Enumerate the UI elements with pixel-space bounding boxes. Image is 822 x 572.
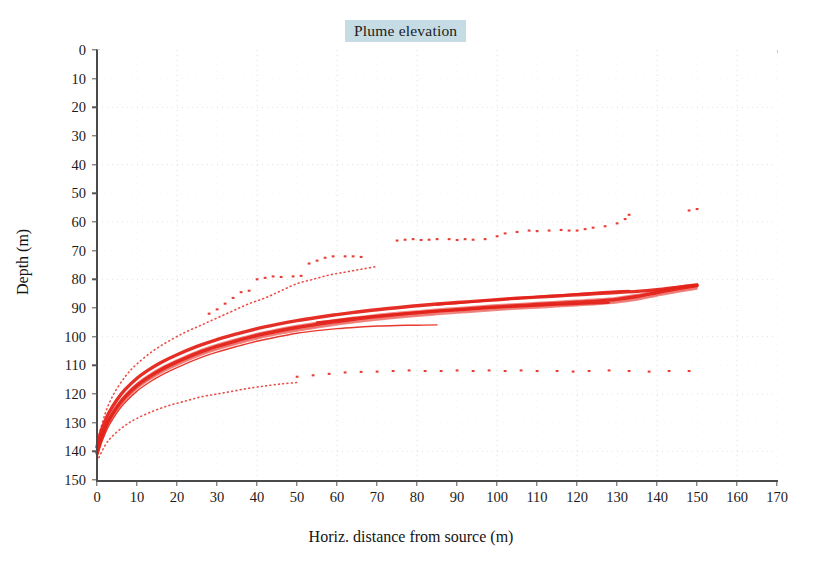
series-plume-centreline-band-lower <box>97 325 437 457</box>
x-tick-mark-160 <box>736 481 737 486</box>
y-tick-mark-30 <box>92 135 97 136</box>
x-tick-30: 30 <box>210 490 225 505</box>
x-tick-110: 110 <box>526 490 547 505</box>
data-layer <box>97 50 777 480</box>
y-tick-10: 10 <box>40 71 86 86</box>
y-tick-mark-100 <box>92 336 97 337</box>
plot-frame-right <box>777 50 778 481</box>
x-tick-mark-110 <box>536 481 537 486</box>
x-tick-mark-60 <box>336 481 337 486</box>
scatter-mid-scatter-band <box>396 208 699 242</box>
x-tick-0: 0 <box>93 490 100 505</box>
plot-frame-top <box>97 49 778 50</box>
x-tick-mark-40 <box>256 481 257 486</box>
y-tick-40: 40 <box>40 157 86 172</box>
x-tick-mark-120 <box>576 481 577 486</box>
chart-title: Plume elevation <box>345 20 466 42</box>
x-axis-line <box>96 480 778 482</box>
x-tick-20: 20 <box>170 490 185 505</box>
y-tick-130: 130 <box>40 415 86 430</box>
y-tick-mark-70 <box>92 250 97 251</box>
x-tick-mark-80 <box>416 481 417 486</box>
y-tick-mark-130 <box>92 422 97 423</box>
x-axis-title: Horiz. distance from source (m) <box>0 528 822 546</box>
plume-elevation-chart: Plume elevation 010203040506070809010011… <box>0 0 822 572</box>
x-tick-mark-30 <box>216 481 217 486</box>
y-tick-mark-40 <box>92 164 97 165</box>
y-tick-0: 0 <box>40 43 86 58</box>
x-tick-50: 50 <box>290 490 305 505</box>
y-tick-mark-60 <box>92 221 97 222</box>
plot-area <box>97 50 777 480</box>
y-tick-mark-20 <box>92 107 97 108</box>
x-tick-170: 170 <box>766 490 788 505</box>
x-tick-mark-150 <box>696 481 697 486</box>
x-tick-90: 90 <box>450 490 465 505</box>
x-tick-80: 80 <box>410 490 425 505</box>
x-tick-130: 130 <box>606 490 628 505</box>
y-tick-mark-10 <box>92 78 97 79</box>
y-tick-90: 90 <box>40 301 86 316</box>
series-plume-centreline-band-core <box>97 286 697 453</box>
y-tick-80: 80 <box>40 272 86 287</box>
series-plume-centreline-band-upper <box>97 285 697 447</box>
y-tick-150: 150 <box>40 473 86 488</box>
x-tick-40: 40 <box>250 490 265 505</box>
x-tick-60: 60 <box>330 490 345 505</box>
scatter-lower-scatter-band <box>296 369 691 377</box>
y-tick-30: 30 <box>40 129 86 144</box>
x-tick-10: 10 <box>130 490 145 505</box>
x-tick-mark-130 <box>616 481 617 486</box>
y-tick-mark-0 <box>92 49 97 50</box>
series-plume-envelope-upper-dotted <box>97 266 377 442</box>
y-tick-mark-80 <box>92 279 97 280</box>
y-tick-70: 70 <box>40 243 86 258</box>
y-tick-mark-50 <box>92 193 97 194</box>
y-tick-60: 60 <box>40 215 86 230</box>
y-tick-mark-140 <box>92 451 97 452</box>
scatter-upper-scatter-band <box>208 255 363 314</box>
y-tick-110: 110 <box>40 358 86 373</box>
y-tick-mark-110 <box>92 365 97 366</box>
y-axis-line <box>96 49 98 481</box>
x-tick-mark-70 <box>376 481 377 486</box>
x-tick-mark-170 <box>776 481 777 486</box>
x-tick-mark-90 <box>456 481 457 486</box>
x-tick-160: 160 <box>726 490 748 505</box>
x-tick-150: 150 <box>686 490 708 505</box>
x-tick-120: 120 <box>566 490 588 505</box>
y-tick-140: 140 <box>40 444 86 459</box>
y-tick-120: 120 <box>40 387 86 402</box>
x-tick-mark-20 <box>176 481 177 486</box>
y-tick-100: 100 <box>40 329 86 344</box>
x-tick-mark-10 <box>136 481 137 486</box>
x-tick-70: 70 <box>370 490 385 505</box>
x-tick-mark-100 <box>496 481 497 486</box>
x-tick-mark-50 <box>296 481 297 486</box>
y-tick-mark-120 <box>92 393 97 394</box>
x-tick-100: 100 <box>486 490 508 505</box>
x-tick-140: 140 <box>646 490 668 505</box>
y-axis-title: Depth (m) <box>14 229 32 295</box>
y-tick-20: 20 <box>40 100 86 115</box>
y-tick-mark-90 <box>92 307 97 308</box>
x-tick-mark-0 <box>96 481 97 486</box>
y-tick-50: 50 <box>40 186 86 201</box>
x-tick-mark-140 <box>656 481 657 486</box>
